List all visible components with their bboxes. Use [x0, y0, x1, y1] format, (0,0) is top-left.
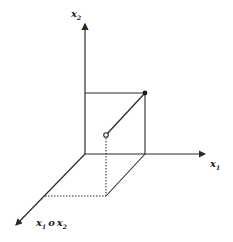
- axes-diagram: x2 x1 x1ox2: [0, 0, 233, 242]
- x1-label: x1: [209, 158, 220, 171]
- vector-line: [106, 93, 145, 135]
- filled-point: [143, 91, 148, 96]
- diagram-canvas: x2 x1 x1ox2: [0, 0, 233, 242]
- open-point: [104, 133, 109, 138]
- diagonal-axis: [16, 154, 85, 225]
- diagonal-label: x1ox2: [35, 217, 67, 230]
- box-base-diagonal: [106, 154, 145, 196]
- x2-label: x2: [70, 8, 81, 21]
